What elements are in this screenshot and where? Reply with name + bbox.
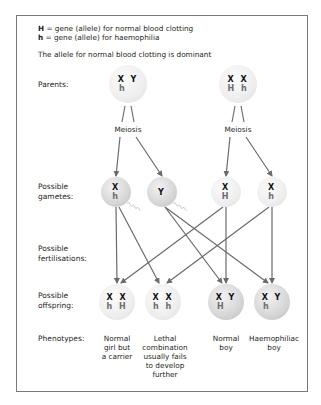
meiosis-arrow: [246, 137, 272, 176]
alleles: H: [217, 302, 226, 311]
gamete-male-x-h: X h: [101, 177, 131, 207]
meiosis-line-upper: [122, 106, 125, 122]
meiosis-arrow: [116, 137, 120, 176]
gamete-male-y: Y: [147, 177, 177, 207]
meiosis-label-male: Meiosis: [115, 125, 142, 134]
meiosis-line-upper: [232, 106, 235, 122]
phenotype-normal-boy: Normal boy: [213, 334, 239, 352]
parent-female: X X H h: [219, 65, 257, 103]
chromosomes: X X: [227, 75, 248, 84]
alleles: H h: [227, 84, 248, 93]
fertilisation-arrow: [116, 207, 117, 283]
alleles: h: [263, 302, 271, 311]
offspring-haemophiliac-boy: X Y h: [254, 284, 290, 320]
chromosomes: X X: [152, 293, 173, 302]
alleles: h: [268, 192, 276, 201]
alleles: H: [222, 192, 231, 201]
chromosomes: Y: [158, 188, 166, 197]
meiosis-line-upper: [241, 106, 244, 122]
fertilisation-arrow: [165, 207, 222, 283]
chromosomes: X Y: [216, 293, 237, 302]
phenotype-haemophiliac-boy: Haemophiliac boy: [249, 334, 299, 352]
fertilisation-arrow: [167, 207, 269, 283]
phenotype-lethal: Lethal combination usually fails to deve…: [142, 334, 187, 379]
parent-male: X Y h: [109, 65, 147, 103]
offspring-carrier-girl: X X h H: [99, 284, 135, 320]
chromosomes: X: [222, 183, 230, 192]
fertilisation-arrow: [121, 207, 223, 283]
offspring-lethal-combination: X X h h: [145, 284, 181, 320]
chromosomes: X Y: [118, 75, 139, 84]
gamete-female-x-H: X H: [211, 177, 241, 207]
offspring-normal-boy: X Y H: [208, 284, 244, 320]
meiosis-arrow: [226, 137, 230, 176]
chromosomes: X Y: [262, 293, 283, 302]
fertilisation-arrow: [165, 207, 268, 283]
alleles: h: [112, 192, 120, 201]
chromosomes: X: [268, 183, 276, 192]
sperm-tail-icon: [173, 203, 186, 211]
chromosomes: X: [112, 183, 120, 192]
sperm-tail-icon: [127, 203, 140, 211]
gamete-female-x-h: X h: [257, 177, 287, 207]
fertilisation-arrow: [119, 207, 159, 283]
meiosis-line-upper: [131, 106, 134, 122]
phenotype-carrier-girl: Normal girl but a carrier: [102, 334, 133, 361]
meiosis-label-female: Meiosis: [225, 125, 252, 134]
alleles: h: [119, 84, 127, 93]
chromosomes: X X: [106, 293, 127, 302]
alleles: h H: [106, 302, 127, 311]
alleles: h h: [153, 302, 173, 311]
meiosis-arrow: [136, 137, 162, 176]
